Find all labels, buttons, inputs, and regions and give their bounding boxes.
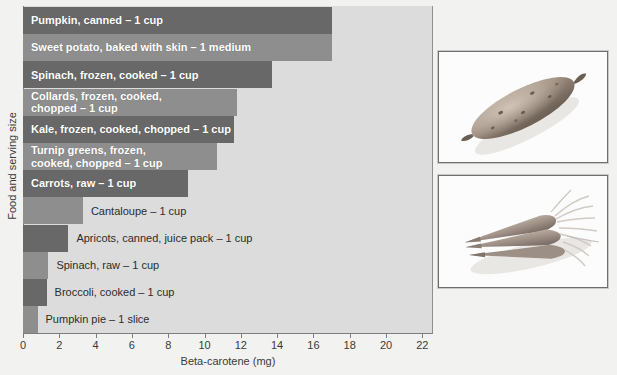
carrots-photo — [438, 175, 608, 288]
bar-row: Carrots, raw – 1 cup — [23, 170, 432, 197]
x-axis-tick-label: 8 — [165, 339, 171, 351]
x-axis-tick-label: 18 — [344, 339, 356, 351]
x-axis-tick-label: 12 — [235, 339, 247, 351]
x-axis-tick-label: 10 — [198, 339, 210, 351]
bar-label: Kale, frozen, cooked, chopped – 1 cup — [31, 116, 231, 143]
bars-container: Pumpkin, canned – 1 cupSweet potato, bak… — [23, 7, 432, 333]
x-axis-tick — [23, 333, 24, 338]
bar-label: Collards, frozen, cooked, chopped – 1 cu… — [31, 89, 162, 116]
x-axis-tick-label: 20 — [380, 339, 392, 351]
x-axis-tick — [205, 333, 206, 338]
x-axis-tick-label: 14 — [271, 339, 283, 351]
bar — [23, 306, 38, 333]
bar-label: Spinach, frozen, cooked – 1 cup — [31, 61, 198, 88]
bar-row: Spinach, frozen, cooked – 1 cup — [23, 61, 432, 88]
x-axis-tick — [386, 333, 387, 338]
x-axis-tick — [59, 333, 60, 338]
bar-label: Apricots, canned, juice pack – 1 cup — [76, 225, 252, 252]
bar-row: Kale, frozen, cooked, chopped – 1 cup — [23, 116, 432, 143]
bar — [23, 197, 83, 224]
bar-row: Apricots, canned, juice pack – 1 cup — [23, 225, 432, 252]
bar — [23, 225, 68, 252]
bar-row: Sweet potato, baked with skin – 1 medium — [23, 34, 432, 61]
bar-row: Cantaloupe – 1 cup — [23, 197, 432, 224]
bar-label: Sweet potato, baked with skin – 1 medium — [31, 34, 251, 61]
x-axis-tick-label: 4 — [93, 339, 99, 351]
bar-label: Broccoli, cooked – 1 cup — [55, 279, 175, 306]
x-axis-title: Beta-carotene (mg) — [0, 355, 456, 367]
x-axis-tick — [422, 333, 423, 338]
bar-row: Spinach, raw – 1 cup — [23, 252, 432, 279]
bar-row: Turnip greens, frozen, cooked, chopped –… — [23, 143, 432, 170]
beta-carotene-bar-chart: Pumpkin, canned – 1 cupSweet potato, bak… — [0, 0, 617, 375]
bar-row: Pumpkin pie – 1 slice — [23, 306, 432, 333]
bar-label: Turnip greens, frozen, cooked, chopped –… — [31, 143, 162, 170]
bar — [23, 252, 48, 279]
x-axis-tick-label: 16 — [307, 339, 319, 351]
bar-row: Broccoli, cooked – 1 cup — [23, 279, 432, 306]
x-axis-tick-label: 0 — [20, 339, 26, 351]
x-axis-tick-label: 6 — [129, 339, 135, 351]
x-axis-tick — [168, 333, 169, 338]
bar-label: Pumpkin pie – 1 slice — [46, 306, 150, 333]
bar-row: Pumpkin, canned – 1 cup — [23, 7, 432, 34]
bar — [23, 279, 47, 306]
bar-label: Pumpkin, canned – 1 cup — [31, 7, 163, 34]
bar-row: Collards, frozen, cooked, chopped – 1 cu… — [23, 89, 432, 116]
bar-label: Spinach, raw – 1 cup — [56, 252, 159, 279]
x-axis-tick — [350, 333, 351, 338]
x-axis-tick — [96, 333, 97, 338]
x-axis-tick — [277, 333, 278, 338]
x-axis-tick — [313, 333, 314, 338]
x-axis-tick — [132, 333, 133, 338]
sweet-potato-photo — [438, 51, 608, 163]
x-axis-tick — [241, 333, 242, 338]
bar-label: Cantaloupe – 1 cup — [91, 197, 186, 224]
x-axis-tick-label: 22 — [416, 339, 428, 351]
bar-label: Carrots, raw – 1 cup — [31, 170, 136, 197]
x-axis-tick-label: 2 — [56, 339, 62, 351]
y-axis-title: Food and serving size — [6, 96, 18, 236]
